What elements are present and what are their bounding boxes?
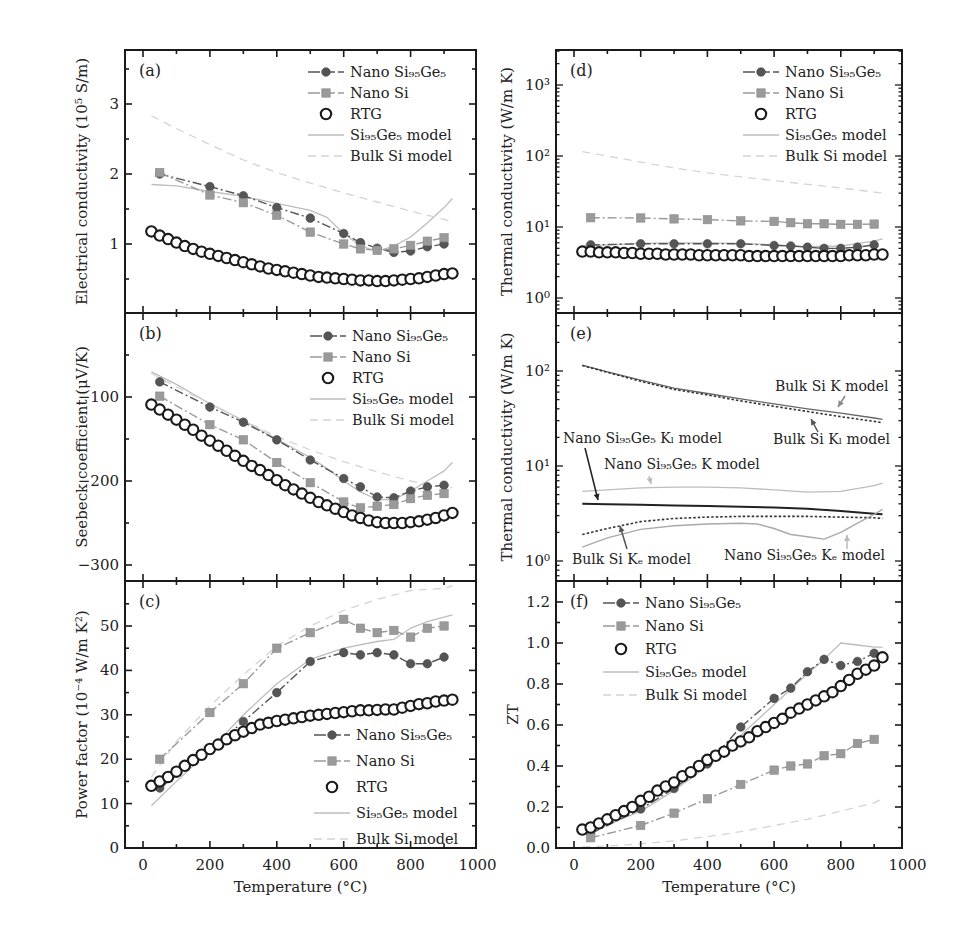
circle-marker [206,182,215,191]
circle-marker [406,659,415,668]
legend-label: Bulk Si model [785,148,888,164]
legend-swatch-marker [324,332,333,341]
legend-item: Nano Si₉₅Ge₅ [314,727,452,743]
legend-swatch-marker [328,731,337,740]
circle-marker [206,403,215,412]
legend-item: Nano Si₉₅Ge₅ [603,595,741,611]
panel-tag: (c) [139,592,160,611]
legend-swatch-marker [323,373,333,383]
series-bulk-si-model [151,586,452,777]
square-marker [273,644,281,652]
legend-item: Si₉₅Ge₅ model [310,391,454,407]
legend-swatch-marker [756,109,766,119]
circle-marker [736,723,745,732]
x-tick-label: 800 [396,856,425,874]
y-tick-label: 1.0 [526,634,550,652]
y-tick-label: 20 [100,750,119,768]
legend-label: Nano Si [350,85,409,101]
y-tick-label: 0.4 [526,757,550,775]
annotation-arrow [585,448,598,500]
legend-item: Nano Si [314,753,415,769]
circle-marker [339,474,348,483]
square-marker [306,228,314,236]
circle-marker [736,239,745,248]
circle-marker [356,651,365,660]
y-tick-label: −300 [78,556,119,574]
circle-marker [239,717,248,726]
series-line [582,504,882,515]
legend-label: Bulk Si model [645,687,748,703]
y-tick-label: 40 [100,661,119,679]
legend-label: RTG [356,779,388,795]
series-nano-si [586,214,878,229]
y-axis-label: Thermal conductivity (W/m K) [498,333,516,562]
panel-tag: (d) [570,61,593,80]
y-tick-label: 10 [100,795,119,813]
square-marker [770,217,778,225]
series-line [160,173,444,251]
series-rtg [146,226,457,286]
square-marker [853,739,861,747]
legend-label: Nano Si₉₅Ge₅ [645,595,741,611]
plot-layer [146,116,888,847]
y-tick-label: 0 [109,839,119,857]
legend-item: RTG [616,641,677,657]
y-tick-label: 10³ [525,76,550,94]
square-marker [637,821,645,829]
open-circle-marker [877,249,887,259]
series-nano-si95ge5-k-model [582,483,882,492]
x-axis-label: Temperature (°C) [662,878,796,896]
legend-label: Nano Si₉₅Ge₅ [352,328,448,344]
square-marker [586,214,594,222]
circle-marker [155,378,164,387]
square-marker [637,214,645,222]
y-tick-label: 0.8 [526,675,550,693]
series-line [151,586,452,777]
arrowhead-icon [844,535,850,541]
legend-item: Bulk Si model [603,687,748,703]
series-line [591,218,875,225]
x-tick-label: 600 [760,856,789,874]
square-marker [356,504,364,512]
circle-marker [440,481,449,490]
square-marker [340,240,348,248]
legend-label: Nano Si₉₅Ge₅ [785,64,881,80]
legend-label: Si₉₅Ge₅ model [352,391,454,407]
legend-item: Bulk Si model [314,831,459,847]
legend-item: Nano Si₉₅Ge₅ [310,328,448,344]
series-line [160,174,444,252]
y-tick-label: 10⁰ [525,289,550,307]
panel-tag: (a) [139,61,161,80]
annotation-label: Bulk Si Kₗ model [773,431,890,447]
y-tick-label: 10⁰ [525,552,550,570]
x-tick-label: 400 [262,856,291,874]
panel-e-frame [556,313,902,581]
square-marker [206,421,214,429]
square-marker [273,211,281,219]
square-marker [770,766,778,774]
circle-marker [273,688,282,697]
y-tick-label: 0.2 [526,798,550,816]
panel-d-series [577,152,888,262]
square-marker [670,215,678,223]
series-nano-si95ge5-ke-model [582,509,882,547]
square-marker [156,168,164,176]
square-marker [837,220,845,228]
legend-swatch-marker [324,353,332,361]
annotation-label: Nano Si₉₅Ge₅ K model [604,456,760,472]
panel-d-frame [556,50,902,313]
square-marker [406,633,414,641]
y-axis-label: Seebeck coefficient (μV/K) [73,346,91,548]
circle-marker [820,655,829,664]
figure-canvas: 123Electrical conductivity (10⁵ S/m)(a)N… [0,0,961,940]
square-marker [373,246,381,254]
square-marker [239,199,247,207]
legend-item: RTG [327,779,388,795]
legend-swatch-marker [327,782,337,792]
x-tick-label: 0 [569,856,579,874]
circle-marker [306,657,315,666]
legend-label: RTG [352,370,384,386]
circle-marker [786,242,795,251]
legend-label: Bulk Si model [350,148,453,164]
series-nano-si95ge5-kl-model [582,504,882,515]
